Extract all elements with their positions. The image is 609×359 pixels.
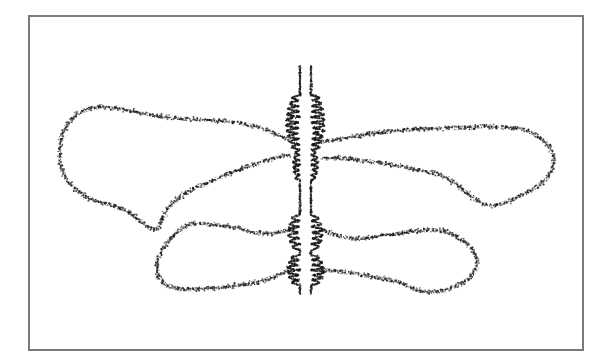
axis-strand-right [309,65,326,295]
lower-left-loop [154,220,295,292]
lateral-loops [57,104,556,295]
chromosome-loops-illustration [0,0,609,359]
chromosome-axis [285,65,325,295]
lower-right-loop [321,227,480,295]
upper-left-loop [57,104,291,232]
axis-strand-left [285,65,302,295]
upper-right-loop [320,123,556,208]
